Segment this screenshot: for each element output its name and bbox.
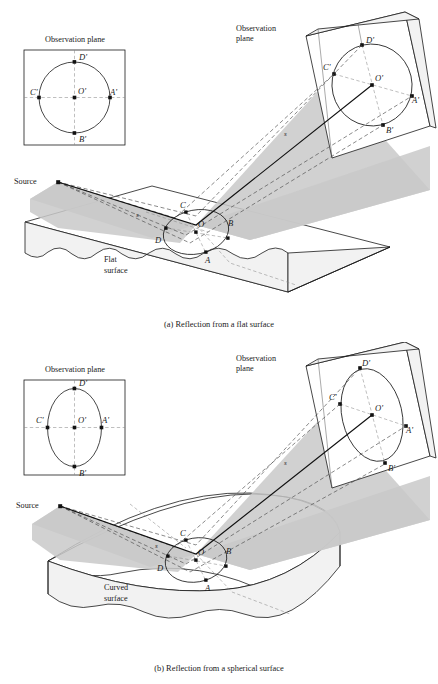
source-label-b: Source	[16, 501, 39, 510]
inset-point-c-a	[37, 96, 41, 100]
inset-point-o-b	[73, 426, 77, 430]
source-marker-b: Source	[16, 501, 62, 510]
inset-label-o-a: O'	[78, 86, 86, 96]
panel-flat-surface: Observation plane D' C' O' A' B' Observa…	[0, 0, 438, 342]
spot-point-c-b	[184, 538, 187, 541]
inset-label-b-a: B'	[79, 134, 86, 144]
obsplane-point-b-b	[383, 461, 387, 465]
spot-label-a-a: A	[204, 255, 211, 265]
inset-point-c-b	[46, 426, 50, 430]
inset-point-d-b	[73, 387, 77, 391]
caption-a: (a) Reflection from a flat surface	[164, 320, 274, 329]
spot-point-b-b	[224, 564, 227, 567]
curved-surface-label-line1: Curved	[104, 583, 128, 592]
spot-label-c-b: C	[180, 528, 186, 538]
flat-surface-label-line1: Flat	[104, 255, 117, 264]
spot-point-d-b	[166, 554, 169, 557]
obsplane-title-line1-b: Observation	[236, 354, 276, 363]
panel-a-drawing: Observation plane D' C' O' A' B' Observa…	[0, 0, 438, 342]
spot-label-b-a: B	[228, 218, 234, 228]
inset-observation-plane-b: Observation plane D' C' O' A' B'	[24, 365, 125, 478]
obsplane-label-a-a: A'	[411, 95, 419, 105]
obsplane-title-line1-a: Observation	[236, 24, 276, 33]
flat-surface-label-line2: surface	[104, 266, 128, 275]
spot-label-c-a: C	[180, 200, 186, 210]
ray-label-s2-b: s	[155, 542, 158, 550]
obsplane-label-d-b: D'	[361, 358, 370, 368]
caption-b: (b) Reflection from a spherical surface	[154, 664, 284, 673]
curved-surface-label-line2: surface	[104, 594, 128, 603]
obsplane-label-b-a: B'	[386, 125, 393, 135]
inset-label-b-b: B'	[79, 468, 86, 478]
obsplane-label-o-b: O'	[375, 403, 383, 413]
source-marker-a: Source	[14, 177, 60, 186]
inset-label-c-b: C'	[36, 415, 44, 425]
spot-label-d-a: D	[154, 235, 162, 245]
spot-point-c-a	[184, 210, 187, 213]
inset-label-d-b: D'	[78, 378, 87, 388]
source-dot-a	[56, 180, 60, 184]
ray-label-s2-a: s	[136, 211, 139, 219]
ray-label-s-a: s	[284, 130, 287, 138]
inset-point-b-b	[73, 465, 77, 469]
obsplane-label-b-b: B'	[388, 463, 395, 473]
spot-label-o-b: O	[198, 547, 204, 557]
inset-point-a-b	[100, 426, 104, 430]
inset-point-d-a	[73, 60, 77, 64]
panel-b-drawing: Observation plane D' C' O' A' B' Observa…	[0, 342, 438, 684]
spot-point-d-a	[164, 226, 167, 229]
obsplane-label-a-b: A'	[405, 425, 413, 435]
obsplane-title-line2-a: plane	[236, 34, 254, 43]
spot-point-a-b	[204, 578, 207, 581]
optics-reflection-figure: Observation plane D' C' O' A' B' Observa…	[0, 0, 438, 684]
obsplane-label-d-a: D'	[365, 35, 374, 45]
inset-label-d-a: D'	[78, 52, 87, 62]
obsplane-label-o-a: O'	[375, 73, 383, 83]
panel-spherical-surface: Observation plane D' C' O' A' B' Observa…	[0, 342, 438, 684]
spot-label-a-b: A	[204, 583, 211, 593]
spot-point-o-b	[194, 558, 197, 561]
spot-label-o-a: O	[198, 219, 204, 229]
spot-point-b-a	[226, 236, 229, 239]
spot-point-a-a	[204, 250, 207, 253]
ray-label-s-b: s	[284, 459, 287, 467]
inset-title-b: Observation plane	[45, 365, 105, 374]
source-label-a: Source	[14, 177, 37, 186]
inset-observation-plane-a: Observation plane D' C' O' A' B'	[24, 35, 125, 145]
inset-label-c-a: C'	[30, 87, 38, 97]
inset-point-o-a	[73, 96, 77, 100]
inset-label-a-a: A'	[109, 87, 117, 97]
obsplane-title-line2-b: plane	[236, 364, 254, 373]
inset-title-a: Observation plane	[45, 35, 105, 44]
obsplane-label-c-a: C'	[323, 62, 331, 72]
source-dot-b	[58, 504, 62, 508]
incident-beam-shadow-b	[32, 506, 60, 560]
inset-label-a-b: A'	[101, 415, 109, 425]
inset-point-b-a	[73, 131, 77, 135]
spot-label-b-b: B	[226, 546, 232, 556]
spot-point-o-a	[194, 230, 197, 233]
spot-label-d-b: D	[156, 563, 164, 573]
inset-label-o-b: O'	[78, 415, 86, 425]
